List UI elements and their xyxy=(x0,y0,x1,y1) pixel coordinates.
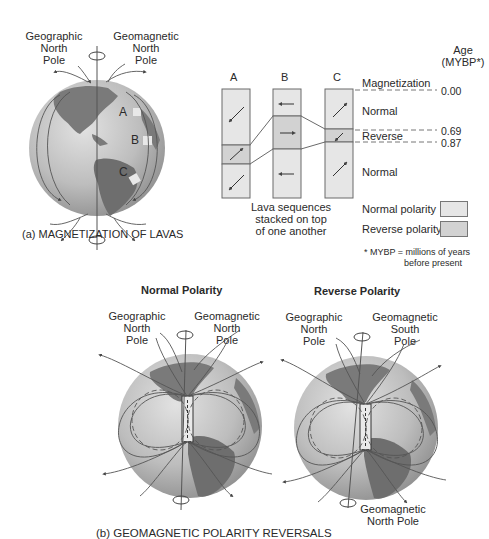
interval-label-normal-top: Normal xyxy=(362,105,397,117)
legend-normal-swatch xyxy=(440,201,468,217)
site-a-label: A xyxy=(119,106,127,118)
site-b-label: B xyxy=(131,134,139,146)
geographic-north-pole-label-a: Geographic North Pole xyxy=(18,30,90,66)
correlation-line xyxy=(301,142,325,149)
caption-panel-a: (a) MAGNETIZATION OF LAVAS xyxy=(22,228,183,240)
site-c-label: C xyxy=(119,166,128,178)
correlation-line xyxy=(250,116,273,145)
interval-label-normal-bottom: Normal xyxy=(362,166,397,178)
normal-polarity-title: Normal Polarity xyxy=(141,284,222,296)
stack-caption: Lava sequences stacked on top of one ano… xyxy=(246,201,336,237)
column-b-header: B xyxy=(281,71,288,83)
magnetization-header: Magnetization xyxy=(362,77,431,89)
geomagnetic-north-pole-label-a: Geomagnetic North Pole xyxy=(110,30,182,66)
reverse-polarity-title: Reverse Polarity xyxy=(314,285,400,297)
reverse-geomagnetic-north-label: Geomagnetic North Pole xyxy=(358,503,428,527)
reverse-geomagnetic-south-label: Geomagnetic South Pole xyxy=(370,311,440,347)
legend-reverse-swatch xyxy=(440,221,468,237)
normal-geographic-label: Geographic North Pole xyxy=(104,310,170,346)
lava-columns xyxy=(222,89,353,198)
age-header: Age (MYBP*) xyxy=(440,44,486,68)
rotation-arrow-normal-top xyxy=(177,331,193,339)
column-b-normal-top xyxy=(273,89,301,116)
age-value-1: 0.69 xyxy=(441,125,461,137)
correlation-line xyxy=(301,116,325,129)
column-c-normal-top xyxy=(325,89,353,129)
column-c-reverse xyxy=(325,129,353,142)
column-a-normal-top xyxy=(222,89,250,145)
column-a-header: A xyxy=(230,71,237,83)
site-a-marker xyxy=(133,108,141,116)
legend-reverse-label: Reverse polarity xyxy=(362,223,441,235)
normal-geomagnetic-label: Geomagnetic North Pole xyxy=(192,310,262,346)
reverse-geographic-label: Geographic North Pole xyxy=(281,311,347,347)
interval-label-reverse: Reverse xyxy=(362,130,403,142)
correlation-line xyxy=(250,149,273,164)
age-value-2: 0.87 xyxy=(441,137,461,149)
caption-panel-b: (b) GEOMAGNETIC POLARITY REVERSALS xyxy=(96,527,332,539)
site-b-marker xyxy=(143,136,152,145)
column-a-normal-bottom xyxy=(222,164,250,198)
column-c-header: C xyxy=(333,71,341,83)
age-value-0: 0.00 xyxy=(441,85,461,97)
footnote: * MYBP = millions of years before presen… xyxy=(364,247,470,269)
legend-normal-label: Normal polarity xyxy=(362,203,436,215)
